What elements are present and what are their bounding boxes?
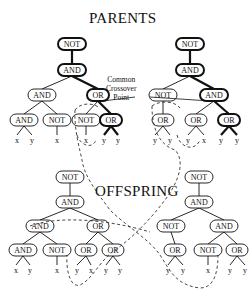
parent-left-leaf: x [55, 136, 59, 145]
offspring-right-leaf-edge [175, 256, 183, 265]
offspring-right-node-not: NOT [194, 244, 222, 256]
offspring-right-node-not: NOT [185, 171, 213, 183]
svg-text:AND: AND [181, 66, 199, 75]
offspring-left-leaf-edge [77, 256, 86, 265]
parent-left-edge [86, 101, 98, 114]
parent-right-edge [196, 101, 214, 114]
parent-left-leaf: y [30, 136, 34, 145]
svg-text:AND: AND [61, 198, 79, 207]
parent-left-leaf: x [84, 136, 88, 145]
offspring-right-edge [208, 232, 224, 244]
svg-text:AND: AND [190, 198, 208, 207]
offspring-left-leaf-edge [113, 256, 120, 265]
parent-left-node-not: NOT [43, 114, 71, 126]
svg-text:NOT: NOT [64, 40, 81, 49]
svg-text:OR: OR [190, 116, 202, 125]
offspring-left-leaf: y [118, 266, 122, 275]
offspring-left-leaf: y [75, 266, 79, 275]
parent-left-node-not: NOT [58, 38, 86, 50]
parent-right-leaf-edge [163, 126, 170, 135]
svg-text:OR: OR [169, 246, 181, 255]
parent-right-edge [190, 76, 214, 89]
svg-text:AND: AND [33, 91, 51, 100]
svg-text:AND: AND [205, 91, 223, 100]
offspring-right-leaf-edge [237, 256, 245, 265]
offspring-right-leaf: y [228, 266, 232, 275]
offspring-left-leaf-edge [86, 256, 91, 265]
svg-text:OR: OR [107, 246, 119, 255]
parent-left-edge [72, 76, 98, 89]
svg-text:OR: OR [105, 116, 117, 125]
offspring-right-leaf-edge [230, 256, 237, 265]
parent-left-leaf-edge [17, 126, 24, 135]
svg-text:OR: OR [157, 116, 169, 125]
svg-text:AND: AND [215, 222, 233, 231]
parent-right-node-not: NOT [176, 38, 204, 50]
parent-right-leaf-edge [196, 126, 204, 135]
offspring-left-leaf-edge [23, 256, 30, 265]
parent-right-leaf: y [168, 136, 172, 145]
parent-left-leaf: y [116, 136, 120, 145]
parent-right-leaf-edge [188, 126, 196, 135]
parent-left-node-and: AND [28, 89, 56, 101]
svg-text:NOT: NOT [200, 246, 217, 255]
parent-left-edge [42, 76, 72, 89]
offspring-left-edge [86, 232, 98, 244]
offspring-left-leaf: x [55, 266, 59, 275]
svg-text:NOT: NOT [163, 222, 180, 231]
parent-right-edge [214, 101, 229, 114]
parent-right-leaf: y [235, 136, 239, 145]
svg-text:NOT: NOT [182, 40, 199, 49]
offspring-left-leaf-edge [16, 256, 23, 265]
offspring-right-node-not: NOT [157, 220, 185, 232]
parent-right-node-and: AND [200, 89, 228, 101]
offspring-right-edge [199, 208, 224, 220]
offspring-right-leaf: x [206, 266, 210, 275]
parent-left-edge [42, 101, 57, 114]
svg-text:AND: AND [63, 66, 81, 75]
offspring-left-edge [40, 232, 57, 244]
svg-text:NOT: NOT [78, 116, 95, 125]
parent-left-node-or: OR [100, 114, 122, 126]
offspring-left-leaf: y [28, 266, 32, 275]
offspring-right-edge [171, 232, 175, 244]
svg-text:OR: OR [80, 246, 92, 255]
svg-text:OR: OR [92, 91, 104, 100]
offspring-left-edge [98, 232, 113, 244]
offspring-left-node-and: AND [56, 196, 84, 208]
parent-left-leaf-edge [104, 126, 111, 135]
parent-left-leaf: y [102, 136, 106, 145]
parent-left-leaf-edge [24, 126, 32, 135]
parent-left-leaf: x [15, 136, 19, 145]
crossover-diagram: xyxxyyNOTANDANDORANDNOTNOTORyyyxyyNOTAND… [0, 0, 252, 301]
offspring-right-leaf-edge [168, 256, 175, 265]
parent-right-node-not: NOT [149, 89, 177, 101]
offspring-right-edge [224, 232, 237, 244]
offspring-right-node-or: OR [226, 244, 248, 256]
parent-left-node-and: AND [10, 114, 38, 126]
parent-right-node-and: AND [176, 64, 204, 76]
offspring-right-edge [171, 208, 199, 220]
parent-left-node-or: OR [87, 89, 109, 101]
svg-text:NOT: NOT [49, 246, 66, 255]
parent-left-leaf-edge [111, 126, 118, 135]
offspring-left-edge [70, 208, 98, 220]
parent-left-node-not: NOT [72, 114, 100, 126]
parent-left-edge [98, 101, 111, 114]
svg-text:OR: OR [223, 116, 235, 125]
parent-right-leaf: y [186, 136, 190, 145]
svg-text:NOT: NOT [49, 116, 66, 125]
svg-text:OR: OR [92, 222, 104, 231]
parent-right-edge [163, 76, 190, 89]
parent-left-edge [24, 101, 42, 114]
offspring-right-node-or: OR [164, 244, 186, 256]
offspring-left-node-or: OR [75, 244, 97, 256]
parent-left-node-and: AND [58, 64, 86, 76]
offspring-right-leaf: y [243, 266, 247, 275]
svg-text:AND: AND [14, 246, 32, 255]
parent-right-leaf-edge [229, 126, 237, 135]
offspring-left-edge [23, 232, 40, 244]
svg-text:NOT: NOT [191, 173, 208, 182]
offspring-left-leaf: y [104, 266, 108, 275]
svg-text:AND: AND [31, 222, 49, 231]
